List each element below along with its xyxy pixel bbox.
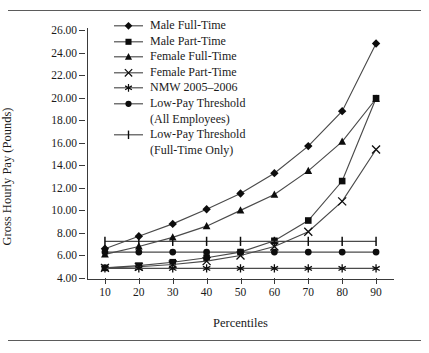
x-tick-label: 40 <box>201 286 213 298</box>
legend-label: Male Full-Time <box>146 18 226 34</box>
marker-diamond <box>202 205 210 213</box>
x-tick-label: 20 <box>133 286 145 298</box>
legend-item: Male Part-Time <box>112 34 245 50</box>
legend-label: Low-Pay Threshold <box>146 127 245 143</box>
y-tick-mark <box>79 75 85 76</box>
figure-top-caption <box>0 0 429 6</box>
y-tick-mark <box>79 210 85 211</box>
y-tick-label: 24.00 <box>51 47 77 59</box>
legend-sublabel-text: (Full-Time Only) <box>112 143 233 159</box>
marker-circle <box>305 249 312 256</box>
legend-symbol-triangle <box>112 49 146 65</box>
y-tick-mark <box>79 143 85 144</box>
legend-symbol-circle <box>112 96 146 112</box>
legend-label: NMW 2005–2006 <box>146 80 237 96</box>
x-tick-label: 60 <box>269 286 281 298</box>
x-tick-mark <box>241 278 242 284</box>
marker-square <box>339 178 346 185</box>
marker-circle <box>237 249 244 256</box>
x-axis-title: Percentiles <box>88 316 393 331</box>
legend-symbol-asterisk <box>112 80 146 96</box>
marker-cross <box>338 197 346 205</box>
marker-circle <box>135 249 142 256</box>
legend-label: Male Part-Time <box>146 34 226 50</box>
marker-square <box>305 217 312 224</box>
marker-diamond <box>236 189 244 197</box>
y-tick-mark <box>79 165 85 166</box>
marker-cross <box>304 228 312 236</box>
x-tick-label: 50 <box>235 286 247 298</box>
y-tick-mark <box>79 30 85 31</box>
legend-item: Female Full-Time <box>112 49 245 65</box>
legend-item: NMW 2005–2006 <box>112 80 245 96</box>
x-tick-label: 30 <box>167 286 179 298</box>
y-tick-label: 6.00 <box>57 249 77 261</box>
y-axis-title-text: Gross Hourly Pay (Pounds) <box>1 108 16 246</box>
y-tick-label: 12.00 <box>51 182 77 194</box>
marker-circle <box>373 249 380 256</box>
legend-item-sublabel: (All Employees) <box>112 112 245 128</box>
marker-circle <box>271 249 278 256</box>
y-axis-title: Gross Hourly Pay (Pounds) <box>0 0 18 353</box>
marker-triangle <box>304 167 312 174</box>
legend-label: Female Full-Time <box>146 49 237 65</box>
y-tick-mark <box>79 98 85 99</box>
legend-symbol-diamond <box>112 18 146 34</box>
legend-label: Low-Pay Threshold <box>146 96 245 112</box>
x-tick-mark <box>342 278 343 284</box>
y-tick-label: 14.00 <box>51 159 77 171</box>
legend-item: Female Part-Time <box>112 65 245 81</box>
legend-item-sublabel: (Full-Time Only) <box>112 143 245 159</box>
legend-item: Male Full-Time <box>112 18 245 34</box>
y-tick-label: 10.00 <box>51 204 77 216</box>
x-tick-mark <box>274 278 275 284</box>
marker-diamond <box>169 220 177 228</box>
marker-triangle <box>271 190 279 197</box>
x-tick-label: 70 <box>303 286 315 298</box>
x-tick-mark <box>105 278 106 284</box>
y-tick-label: 26.00 <box>51 24 77 36</box>
marker-triangle <box>203 222 211 229</box>
marker-circle <box>339 249 346 256</box>
legend-sublabel-text: (All Employees) <box>112 112 230 128</box>
x-tick-mark <box>173 278 174 284</box>
y-tick-label: 16.00 <box>51 137 77 149</box>
legend-symbol-cross <box>112 65 146 81</box>
marker-circle <box>102 249 109 256</box>
y-tick-mark <box>79 188 85 189</box>
x-tick-mark <box>376 278 377 284</box>
x-tick-label: 90 <box>370 286 382 298</box>
x-tick-mark <box>207 278 208 284</box>
x-tick-mark <box>308 278 309 284</box>
marker-square <box>125 38 131 44</box>
series-5 <box>102 249 380 256</box>
y-tick-mark <box>79 120 85 121</box>
y-tick-label: 22.00 <box>51 69 77 81</box>
marker-diamond <box>125 22 133 30</box>
figure-top-rule <box>8 10 421 11</box>
y-tick-label: 18.00 <box>51 114 77 126</box>
y-tick-mark <box>79 255 85 256</box>
legend-symbol-bar <box>112 127 146 143</box>
x-tick-label: 80 <box>336 286 348 298</box>
marker-diamond <box>372 39 380 47</box>
figure-bottom-rule <box>8 340 421 341</box>
marker-triangle <box>237 206 245 213</box>
legend-item: Low-Pay Threshold <box>112 96 245 112</box>
legend-label: Female Part-Time <box>146 65 237 81</box>
y-tick-mark <box>79 53 85 54</box>
y-tick-mark <box>79 278 85 279</box>
marker-circle <box>169 249 176 256</box>
x-tick-mark <box>139 278 140 284</box>
legend-symbol-square <box>112 34 146 50</box>
legend: Male Full-TimeMale Part-TimeFemale Full-… <box>112 18 245 158</box>
marker-circle <box>125 101 131 107</box>
y-tick-label: 20.00 <box>51 92 77 104</box>
y-tick-label: 4.00 <box>57 272 77 284</box>
legend-item: Low-Pay Threshold <box>112 127 245 143</box>
y-tick-label: 8.00 <box>57 227 77 239</box>
y-tick-mark <box>79 233 85 234</box>
figure-chart: Gross Hourly Pay (Pounds) Percentiles 26… <box>0 0 429 353</box>
x-tick-label: 10 <box>99 286 111 298</box>
marker-cross <box>372 145 380 153</box>
